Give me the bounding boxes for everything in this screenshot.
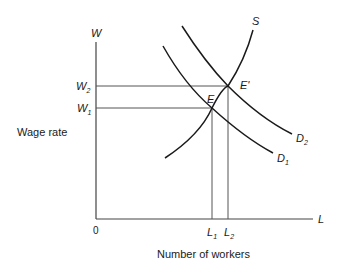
- y-axis-label: Wage rate: [17, 126, 67, 138]
- y-axis-symbol: W: [91, 27, 103, 39]
- l1-label: L1: [207, 226, 217, 240]
- diagram-canvas: W L 0 Wage rate Number of workers W2 W1 …: [0, 0, 339, 261]
- w2-label: W2: [76, 80, 90, 94]
- x-axis-label: Number of workers: [157, 248, 250, 260]
- demand-curve-d1: [163, 46, 273, 153]
- labor-market-diagram: W L 0 Wage rate Number of workers W2 W1 …: [0, 0, 339, 261]
- w1-label: W1: [77, 102, 91, 116]
- d2-label: D2: [296, 132, 308, 146]
- origin-label: 0: [93, 225, 99, 236]
- d1-label: D1: [277, 152, 289, 166]
- l2-label: L2: [224, 226, 234, 240]
- demand-curve-d2: [182, 26, 292, 134]
- supply-label: S: [252, 15, 260, 27]
- equilibrium-e-label: E: [207, 93, 215, 105]
- x-axis-symbol: L: [318, 213, 324, 225]
- equilibrium-e-prime-label: E': [240, 79, 250, 91]
